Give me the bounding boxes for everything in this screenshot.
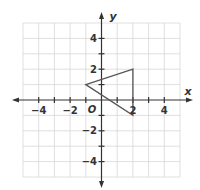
x-tick-label: −2 — [62, 105, 77, 116]
tick-labels: −4 −2 2 4 4 2 −2 −4 O x y — [31, 10, 192, 167]
x-axis — [12, 97, 193, 103]
y-axis-label: y — [109, 10, 117, 23]
x-axis-arrow-right-icon — [186, 98, 193, 103]
x-axis-label: x — [183, 85, 192, 98]
y-tick-label: 4 — [90, 33, 97, 44]
origin-label: O — [88, 104, 97, 115]
y-tick-label: 2 — [90, 64, 97, 75]
y-tick-label: −2 — [82, 125, 97, 136]
x-tick-label: 4 — [161, 105, 168, 116]
x-axis-arrow-left-icon — [12, 98, 19, 103]
coordinate-plane: −4 −2 2 4 4 2 −2 −4 O x y — [0, 0, 200, 190]
y-tick-label: −4 — [82, 156, 97, 167]
y-axis-arrow-down-icon — [99, 181, 104, 188]
x-tick-label: 2 — [129, 105, 136, 116]
y-axis-arrow-up-icon — [99, 12, 104, 19]
x-tick-label: −4 — [31, 105, 46, 116]
